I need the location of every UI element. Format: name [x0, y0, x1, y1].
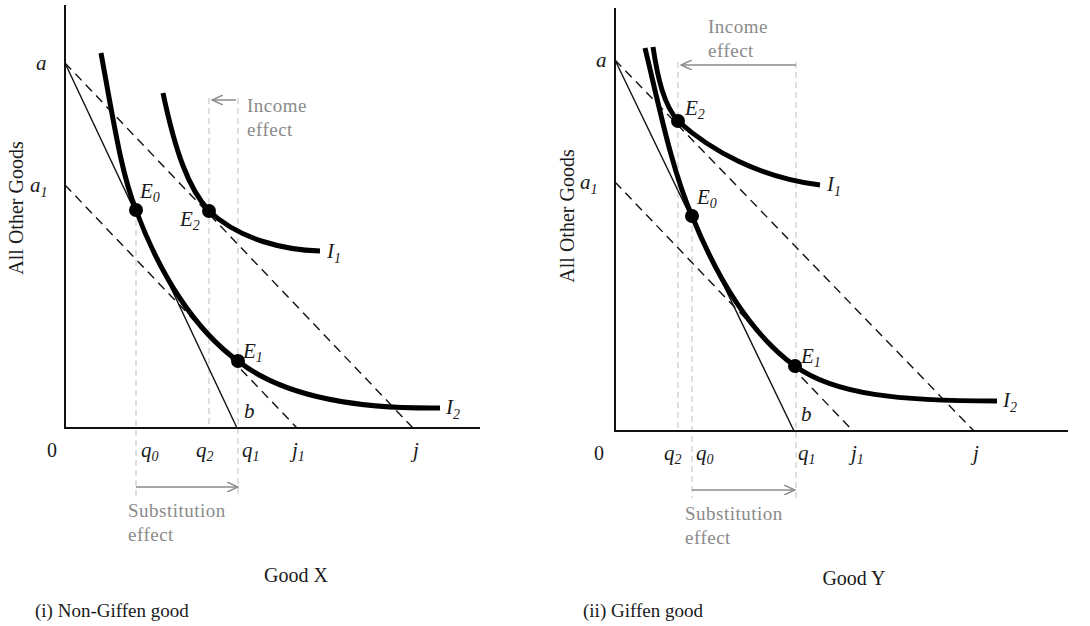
- label-q1: q1: [798, 441, 816, 467]
- label-I1: I1: [326, 239, 341, 266]
- label-E1: E1: [242, 339, 263, 365]
- label-q1: q1: [242, 438, 260, 464]
- label-E0: E0: [139, 179, 160, 205]
- label-a1: a1: [30, 173, 48, 200]
- point-E1: [788, 359, 802, 373]
- giffen-diagram: a a1 0 b q0 q2 q1 j1 j E0 E1 E2 I1 I2 In…: [0, 0, 1090, 626]
- label-I1: I1: [826, 172, 841, 199]
- income-effect-label-line1: Income: [247, 95, 307, 116]
- label-q0: q0: [696, 441, 714, 467]
- label-q0: q0: [141, 438, 159, 464]
- label-a1: a1: [580, 170, 598, 197]
- label-b: b: [801, 402, 812, 426]
- point-E2: [671, 114, 685, 128]
- y-axis-label: All Other Goods: [5, 141, 27, 275]
- label-I2: I2: [445, 395, 460, 422]
- x-axis-label: Good X: [264, 564, 328, 586]
- label-origin: 0: [594, 442, 604, 464]
- label-E2: E2: [179, 207, 200, 233]
- label-E0: E0: [696, 185, 717, 211]
- point-E2: [202, 204, 216, 218]
- label-j1: j1: [289, 438, 305, 464]
- income-effect-label-line1: Income: [708, 16, 768, 37]
- label-q2: q2: [196, 438, 214, 464]
- y-axis-label: All Other Goods: [556, 149, 578, 283]
- substitution-effect-label-line1: Substitution: [128, 500, 226, 521]
- panel-caption: (ii) Giffen good: [583, 600, 703, 622]
- label-E2: E2: [684, 96, 705, 122]
- label-b: b: [244, 399, 255, 423]
- substitution-effect-label-line1: Substitution: [685, 503, 783, 524]
- panel-caption: (i) Non-Giffen good: [35, 600, 189, 622]
- panel-giffen: a a1 0 b q2 q0 q1 j1 j E0 E1 E2 I1 I2 In…: [556, 8, 1068, 622]
- budget-line-aj: [65, 63, 413, 428]
- label-E1: E1: [800, 344, 821, 370]
- point-E0: [129, 203, 143, 217]
- income-effect-label-line2: effect: [247, 119, 293, 140]
- x-axis-label: Good Y: [822, 567, 885, 589]
- label-q2: q2: [664, 441, 682, 467]
- substitution-effect-label-line2: effect: [128, 524, 174, 545]
- point-E0: [685, 209, 699, 223]
- panel-non-giffen: a a1 0 b q0 q2 q1 j1 j E0 E1 E2 I1 I2 In…: [5, 5, 480, 622]
- label-j: j: [410, 438, 419, 462]
- label-origin: 0: [47, 439, 57, 461]
- substitution-effect-label-line2: effect: [685, 527, 731, 548]
- income-effect-label-line2: effect: [708, 40, 754, 61]
- label-j: j: [970, 441, 979, 465]
- label-a: a: [36, 51, 47, 75]
- budget-line-aj: [615, 60, 974, 431]
- label-a: a: [596, 48, 607, 72]
- budget-line-a1j1: [615, 182, 853, 431]
- label-j1: j1: [848, 441, 864, 467]
- label-I2: I2: [1002, 388, 1017, 415]
